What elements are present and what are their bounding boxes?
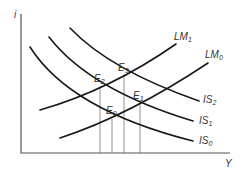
e3-label: E3 (118, 62, 129, 74)
axes (21, 14, 230, 153)
is1-curve (49, 37, 193, 121)
is0-label: IS0 (199, 135, 212, 147)
is1-label: IS1 (199, 115, 212, 127)
is2-label: IS2 (203, 94, 216, 106)
e2-label: E2 (94, 73, 105, 85)
x-axis-label: Y (225, 158, 233, 169)
y-axis-label: i (14, 9, 17, 20)
e1-label: E1 (133, 90, 144, 102)
lm0-label: LM0 (205, 49, 223, 61)
islm-diagram: i Y LM1 LM0 IS2 IS1 IS0 E3 E2 E1 E0 (0, 0, 246, 174)
e0-label: E0 (106, 105, 117, 117)
lm1-curve (40, 44, 176, 110)
lm1-label: LM1 (174, 31, 192, 43)
